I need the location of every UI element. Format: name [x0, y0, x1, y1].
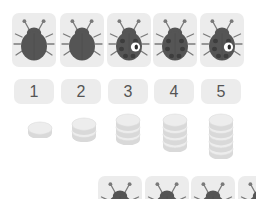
bottom-ladybug-tile-3[interactable]: [191, 176, 235, 199]
bottom-ladybug-tile-1[interactable]: [98, 176, 142, 199]
bottom-ladybug-row: [0, 0, 256, 199]
counting-activity-stage: 12345: [0, 0, 256, 199]
bottom-ladybug-tile-2[interactable]: [145, 176, 189, 199]
bottom-ladybug-tile-4[interactable]: [238, 176, 256, 199]
